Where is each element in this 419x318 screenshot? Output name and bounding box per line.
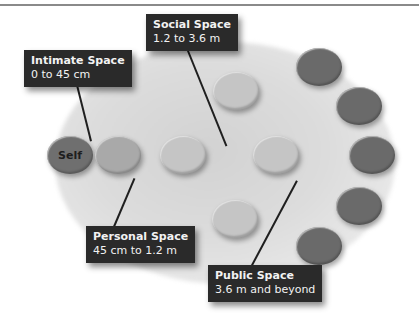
- personal-space-label: Personal Space 45 cm to 1.2 m: [86, 226, 195, 263]
- zone-range: 3.6 m and beyond: [215, 283, 315, 297]
- zone-name: Intimate Space: [31, 54, 125, 68]
- public-disc-3: [349, 136, 395, 174]
- social-disc-left: [160, 136, 206, 174]
- intimate-space-label: Intimate Space 0 to 45 cm: [24, 50, 132, 87]
- zone-name: Public Space: [215, 269, 315, 283]
- zone-name: Personal Space: [93, 230, 188, 244]
- zone-range: 1.2 to 3.6 m: [153, 32, 231, 46]
- zone-range: 45 cm to 1.2 m: [93, 244, 188, 258]
- self-disc: Self: [47, 136, 93, 174]
- social-disc-right: [253, 136, 299, 174]
- zone-name: Social Space: [153, 18, 231, 32]
- public-disc-1: [296, 48, 342, 86]
- top-rule: [0, 4, 419, 6]
- social-space-label: Social Space 1.2 to 3.6 m: [146, 14, 238, 51]
- public-disc-5: [296, 227, 342, 265]
- public-space-label: Public Space 3.6 m and beyond: [208, 265, 322, 302]
- social-disc-bottom: [212, 200, 258, 238]
- zone-range: 0 to 45 cm: [31, 68, 125, 82]
- personal-disc: [95, 136, 141, 174]
- social-disc-top: [213, 72, 259, 110]
- public-disc-2: [336, 87, 382, 125]
- public-disc-4: [336, 187, 382, 225]
- self-label: Self: [58, 149, 82, 162]
